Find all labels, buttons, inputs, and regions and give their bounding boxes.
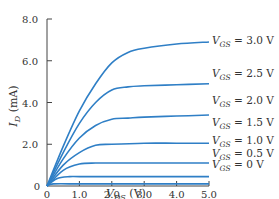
curve-line: [47, 115, 209, 186]
curve-line: [47, 84, 209, 186]
x-tick-label: 1.0: [71, 189, 87, 199]
curve-line: [47, 42, 209, 186]
x-tick-label: 4.0: [169, 189, 185, 199]
axes: 02.04.06.08.001.02.03.04.05.0: [22, 14, 217, 199]
y-tick-label: 6.0: [22, 56, 38, 67]
curve-labels: VGS = 3.0 VVGS = 2.5 VVGS = 2.0 VVGS = 1…: [212, 34, 274, 173]
y-axis-title: ID (mA): [7, 85, 22, 127]
curves: [47, 42, 209, 186]
plot-area: 02.04.06.08.001.02.03.04.05.0 VGS = 3.0 …: [0, 0, 279, 199]
x-tick-label: 5.0: [201, 189, 217, 199]
x-axis-title-text: VDS (V): [106, 187, 146, 199]
y-tick-label: 0: [34, 181, 40, 192]
curve-label: VGS = 2.0 V: [212, 94, 274, 109]
curve-label: VGS = 1.5 V: [212, 116, 274, 131]
curve-line: [47, 163, 209, 186]
y-tick-label: 8.0: [22, 14, 38, 25]
y-tick-label: 2.0: [22, 139, 38, 150]
mosfet-characteristic-chart: 02.04.06.08.001.02.03.04.05.0 VGS = 3.0 …: [0, 0, 279, 199]
curve-label: VGS = 3.0 V: [212, 34, 274, 49]
y-tick-label: 4.0: [22, 98, 38, 109]
curve-label: VGS = 2.5 V: [212, 67, 274, 82]
x-tick-label: 0: [44, 189, 50, 199]
curve-line: [47, 143, 209, 186]
